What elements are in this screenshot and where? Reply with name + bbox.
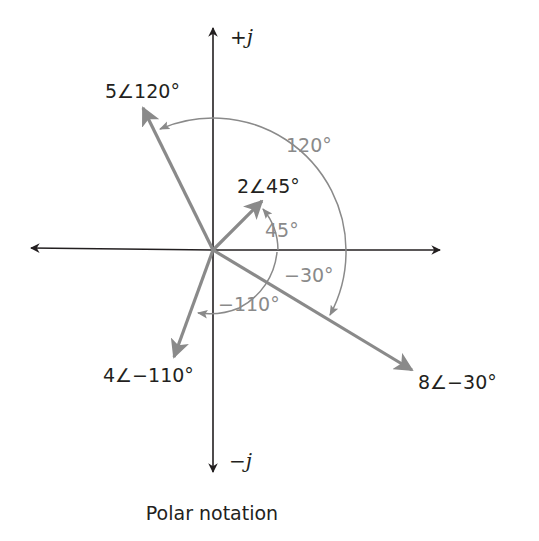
polar-notation-diagram: +j −j 5∠120° 2∠45° 8∠−30° 4∠−110° 120° 4… bbox=[0, 0, 539, 541]
angle-label-neg30: −30° bbox=[284, 264, 334, 286]
phasor-label-8-neg30: 8∠−30° bbox=[418, 371, 497, 393]
angle-label-45: 45° bbox=[265, 219, 299, 241]
negative-imaginary-label: −j bbox=[229, 449, 252, 473]
phasor-label-4-neg110: 4∠−110° bbox=[103, 364, 194, 386]
phasor-label-2-45: 2∠45° bbox=[237, 175, 300, 197]
diagram-caption: Polar notation bbox=[146, 502, 278, 524]
phasor-5-120 bbox=[143, 108, 213, 250]
phasor-label-5-120: 5∠120° bbox=[105, 80, 180, 102]
angle-label-120: 120° bbox=[286, 134, 332, 156]
phasor-2-45 bbox=[213, 201, 262, 250]
positive-imaginary-label: +j bbox=[230, 25, 253, 49]
axes bbox=[31, 28, 440, 472]
angle-label-neg110: −110° bbox=[218, 293, 280, 315]
phasor-4-neg110 bbox=[174, 250, 213, 357]
real-axis-negative bbox=[31, 248, 213, 250]
